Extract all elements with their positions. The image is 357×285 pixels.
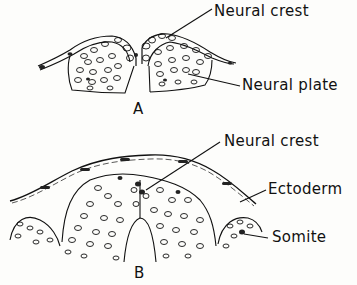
label-neural-plate: Neural plate [242,76,338,94]
panel-b-drawing [10,142,268,262]
panel-letter-a: A [133,100,143,118]
label-somite: Somite [272,228,326,246]
label-ectoderm: Ectoderm [268,180,342,198]
panel-letter-b: B [134,264,144,282]
panel-a-drawing [38,9,240,93]
label-neural-crest-a: Neural crest [214,2,309,20]
label-neural-crest-b: Neural crest [224,132,319,150]
